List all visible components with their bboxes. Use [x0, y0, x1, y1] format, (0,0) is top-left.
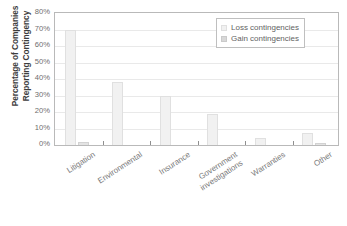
- legend-item[interactable]: Gain contingencies: [221, 33, 299, 44]
- bar-chart: Percentage of Companies Reporting Contin…: [0, 0, 347, 226]
- x-axis-tick-mark: [198, 141, 199, 145]
- x-axis-tick-mark: [293, 141, 294, 145]
- y-axis-tick-labels: 80%70%60%50%40%30%20%10%0%: [22, 8, 50, 146]
- y-axis-tick-label: 20%: [22, 107, 50, 115]
- bar-group: [150, 13, 198, 145]
- y-axis-tick-label: 60%: [22, 41, 50, 49]
- bar-group: [103, 13, 151, 145]
- bar-loss-contingencies: [112, 82, 123, 145]
- x-axis-tick-mark: [103, 141, 104, 145]
- chart-legend: Loss contingenciesGain contingencies: [216, 18, 305, 48]
- x-axis-category-label: Other: [245, 150, 334, 212]
- bar-group: [55, 13, 103, 145]
- bar-loss-contingencies: [255, 138, 266, 145]
- x-axis-category-label: Litigation: [8, 150, 97, 212]
- x-axis-tick-mark: [245, 141, 246, 145]
- bar-gain-contingencies: [315, 143, 326, 145]
- x-axis-category-labels: LitigationEnvironmentalInsuranceGovernme…: [54, 150, 339, 224]
- y-axis-tick-label: 50%: [22, 58, 50, 66]
- x-axis-tick-mark: [150, 141, 151, 145]
- legend-swatch-gain-icon: [221, 36, 227, 42]
- bar-gain-contingencies: [78, 142, 89, 145]
- bar-loss-contingencies: [160, 96, 171, 146]
- y-axis-tick-label: 80%: [22, 8, 50, 16]
- legend-item-label: Loss contingencies: [231, 23, 299, 33]
- y-axis-tick-label: 70%: [22, 25, 50, 33]
- legend-item-label: Gain contingencies: [231, 34, 299, 44]
- bar-loss-contingencies: [207, 114, 218, 145]
- y-axis-tick-label: 30%: [22, 91, 50, 99]
- legend-swatch-loss-icon: [221, 25, 227, 31]
- y-axis-tick-mark: [54, 145, 55, 146]
- y-axis-tick-label: 0%: [22, 140, 50, 148]
- y-axis-tick-label: 40%: [22, 74, 50, 82]
- bar-loss-contingencies: [65, 30, 76, 146]
- bar-loss-contingencies: [302, 133, 313, 145]
- x-axis-category-label: Environmental: [55, 150, 144, 212]
- y-axis-tick-label: 10%: [22, 124, 50, 132]
- legend-item[interactable]: Loss contingencies: [221, 22, 299, 33]
